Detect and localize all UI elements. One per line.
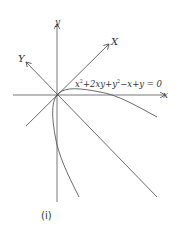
- curve-equation: x2+2xy+y2−x+y = 0: [75, 78, 163, 89]
- eq-part-2: +2xy+y: [83, 79, 117, 89]
- eq-part-4: −x+y = 0: [120, 79, 162, 89]
- x-axis-label: x: [163, 90, 168, 100]
- y-axis-label: y: [54, 17, 61, 27]
- rotated-x-axis-label: X: [110, 36, 119, 47]
- diagram-canvas: x y X Y x2+2xy+y2−x+y = 0: [0, 0, 180, 245]
- figure-caption: (i): [41, 210, 52, 221]
- rotated-y-axis-label: Y: [18, 53, 26, 64]
